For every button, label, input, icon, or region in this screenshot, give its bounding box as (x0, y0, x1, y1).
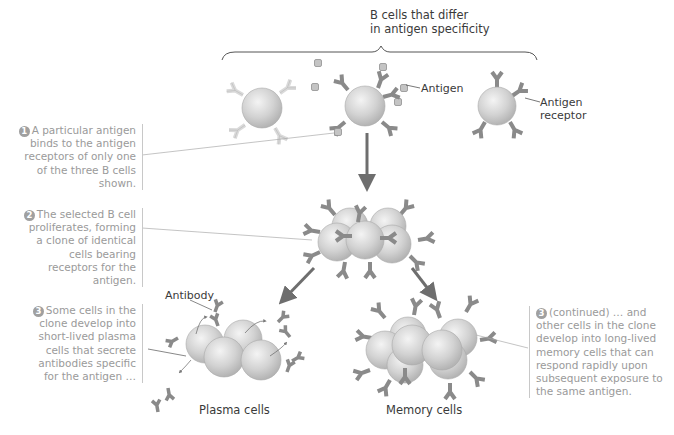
step-3-line: Some cells in the (46, 304, 136, 316)
step-3-line: clone develop into (10, 317, 136, 330)
step-3-continued-note: 3(continued) … and other cells in the cl… (529, 306, 674, 398)
plasma-cells-group (152, 299, 304, 412)
b-cell-1 (227, 80, 296, 145)
step-1-number-icon: 1 (19, 126, 30, 137)
label-antigen-receptor-line-2: receptor (540, 109, 586, 122)
step-3c-line: memory cells that can (536, 346, 674, 359)
step-3-number-icon: 3 (33, 306, 44, 317)
caption-memory-cells: Memory cells (386, 403, 462, 417)
step-1-line: of the three B cells (10, 164, 136, 177)
title-line-2: in antigen specificity (370, 22, 510, 36)
step-3c-line: develop into long-lived (536, 332, 674, 345)
b-cell-clone (303, 200, 434, 279)
step-2-line: antigen. (10, 274, 136, 287)
step-3c-line: (continued) … and (549, 306, 646, 318)
step-3-line: short-lived plasma (10, 330, 136, 343)
label-antigen-receptor: Antigen receptor (540, 96, 586, 122)
step-2-line: The selected B cell (37, 208, 136, 220)
step-2-line: cells bearing (10, 248, 136, 261)
step-3c-line: the same antigen. (536, 385, 674, 398)
step-3-continued-number-icon: 3 (536, 308, 547, 319)
step-1-line: receptors of only one (10, 150, 136, 163)
b-cell-clonal-selection-diagram: B cells that differ in antigen specifici… (0, 0, 674, 435)
diagram-title: B cells that differ in antigen specifici… (370, 8, 510, 36)
label-antigen-receptor-line-1: Antigen (540, 96, 586, 109)
step-3-note: 3Some cells in the clone develop into sh… (10, 304, 143, 383)
step-3-line: cells that secrete (10, 344, 136, 357)
step-1-line: A particular antigen (32, 124, 136, 136)
label-antigen: Antigen (421, 82, 464, 95)
step-3c-line: subsequent exposure to (536, 372, 674, 385)
step-2-line: receptors for the (10, 261, 136, 274)
step-3c-line: other cells in the clone (536, 319, 674, 332)
step-2-note: 2The selected B cell proliferates, formi… (10, 208, 143, 287)
step-1-note: 1A particular antigen binds to the antig… (10, 124, 143, 190)
arrow-to-plasma (285, 268, 314, 298)
step-3-line: for the antigen … (10, 370, 136, 383)
step-3-line: antibodies specific (10, 357, 136, 370)
b-cell-3 (473, 72, 528, 138)
specificity-bracket (222, 46, 537, 60)
title-line-1: B cells that differ (370, 8, 510, 22)
step-2-line: a clone of identical (10, 234, 136, 247)
step-2-line: proliferates, forming (10, 221, 136, 234)
memory-cells-group (353, 296, 496, 399)
step-1-line: shown. (10, 177, 136, 190)
caption-plasma-cells: Plasma cells (199, 403, 270, 417)
step-2-number-icon: 2 (24, 210, 35, 221)
label-antibody: Antibody (165, 289, 214, 302)
step-3c-line: respond rapidly upon (536, 359, 674, 372)
step-1-line: binds to the antigen (10, 137, 136, 150)
arrow-to-memory (412, 268, 432, 294)
